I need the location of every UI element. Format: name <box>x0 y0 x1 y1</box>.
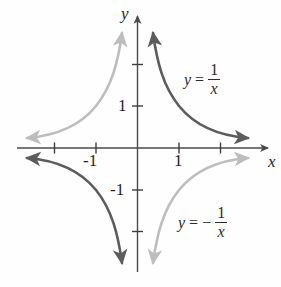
equation-upper-equals: = <box>194 72 207 88</box>
y-tick-label-minus-1: -1 <box>110 181 124 198</box>
equation-lower-fraction: 1 x <box>214 205 228 240</box>
y-axis-label: y <box>121 5 129 22</box>
equation-upper-numerator: 1 <box>208 62 220 79</box>
equation-lower-denominator: x <box>216 223 227 240</box>
x-tick-label-minus-1: -1 <box>83 152 97 169</box>
equation-upper-fraction: 1 x <box>207 62 221 97</box>
equation-lower-equals: = <box>188 215 201 231</box>
equation-lower-sign: − <box>201 215 214 231</box>
equation-label-y-equals-1-over-x: y = 1 x <box>184 62 221 97</box>
equation-upper-lhs: y <box>184 72 194 88</box>
equation-lower-numerator: 1 <box>215 205 227 222</box>
curve-y-eq-minus-1-over-x-quadrant-II <box>27 33 122 138</box>
x-axis <box>17 143 268 154</box>
x-axis-label: x <box>268 153 276 170</box>
equation-label-y-equals-minus-1-over-x: y = − 1 x <box>178 205 228 240</box>
curve-y-eq-1-over-x-quadrant-III <box>27 158 122 263</box>
equation-upper-denominator: x <box>209 80 220 97</box>
hyperbola-graph-figure: y x -1 1 1 -1 y = 1 x y = − 1 x <box>0 0 281 287</box>
equation-lower-lhs: y <box>178 215 188 231</box>
y-axis <box>132 16 143 272</box>
x-tick-label-1: 1 <box>174 152 183 169</box>
y-tick-label-1: 1 <box>118 97 127 114</box>
coordinate-plane-svg <box>0 0 281 287</box>
